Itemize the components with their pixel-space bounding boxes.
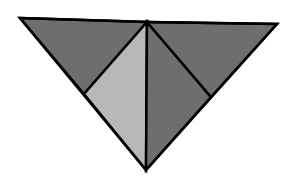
triangle-diagram: [0, 0, 298, 188]
diagram-canvas: [0, 0, 298, 188]
